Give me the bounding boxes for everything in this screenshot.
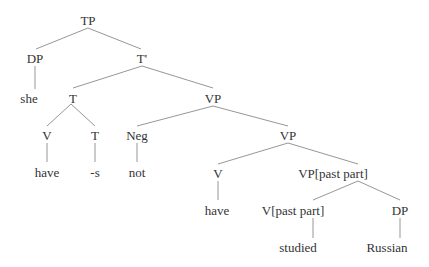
tree-node-she: she — [20, 92, 37, 105]
tree-node-t2: T — [91, 129, 99, 142]
tree-edge-vppp-dp2 — [358, 181, 400, 200]
tree-edge-t1-v1 — [47, 104, 71, 126]
tree-node-s: -s — [90, 166, 99, 179]
tree-edge-vppp-vpart — [313, 181, 358, 200]
tree-edge-tp-dp1 — [36, 28, 88, 49]
tree-node-studied: studied — [279, 241, 317, 254]
tree-node-dp2: DP — [392, 204, 409, 217]
tree-node-vp2: VP — [280, 129, 297, 142]
tree-edge-tbar-vp1 — [142, 66, 213, 88]
tree-node-vp1: VP — [205, 92, 222, 105]
tree-node-v2: V — [213, 167, 222, 180]
tree-node-v1: V — [42, 129, 51, 142]
tree-node-vpart: V[past part] — [262, 204, 324, 217]
tree-edge-vp2-vppp — [288, 143, 358, 164]
tree-edge-vp1-vp2 — [213, 106, 288, 126]
tree-node-vppp: VP[past part] — [298, 167, 368, 180]
tree-node-dp1: DP — [27, 52, 44, 65]
tree-edge-tbar-t1 — [73, 66, 142, 88]
syntax-tree-edges — [0, 0, 429, 267]
tree-node-t1: T — [69, 92, 77, 105]
tree-node-tp: TP — [80, 14, 95, 27]
tree-edge-vp2-v2 — [218, 143, 288, 164]
tree-node-not: not — [129, 166, 146, 179]
tree-node-tbar: T' — [137, 52, 147, 65]
tree-edge-vp1-neg — [137, 106, 213, 126]
tree-node-have2: have — [205, 204, 230, 217]
tree-node-neg: Neg — [126, 129, 148, 142]
tree-node-russian: Russian — [366, 241, 407, 254]
tree-edge-t1-t2 — [71, 104, 95, 126]
tree-edge-tp-tbar — [88, 28, 141, 49]
tree-node-have1: have — [35, 166, 60, 179]
